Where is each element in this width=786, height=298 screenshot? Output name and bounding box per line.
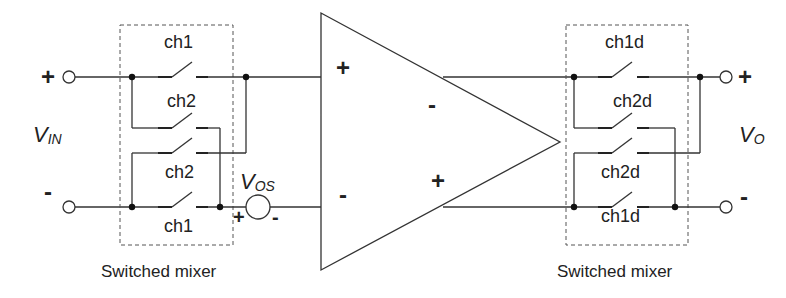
switch-label: ch2 — [167, 91, 196, 111]
right-mixer-caption: Switched mixer — [557, 262, 673, 281]
output-terminals: + - VO — [720, 63, 765, 213]
switch-label: ch1 — [164, 216, 193, 236]
switch-label: ch1 — [164, 32, 193, 52]
input-terminals: + - VIN — [33, 63, 75, 213]
amp-in-minus: - — [339, 181, 347, 208]
output-plus-sign: + — [738, 63, 752, 90]
offset-voltage-source: VOS + - — [233, 169, 321, 228]
amp-in-plus: + — [336, 54, 350, 81]
left-mixer-caption: Switched mixer — [101, 262, 217, 281]
amplifier-triangle — [321, 13, 560, 270]
output-minus-sign: - — [740, 183, 748, 210]
output-plus-terminal — [720, 71, 732, 83]
switch-label: ch1d — [605, 32, 644, 52]
vos-plus-sign: + — [233, 206, 245, 228]
vos-minus-sign: - — [272, 206, 279, 228]
right-switched-mixer: ch1d ch2d ch2d ch1d Switched — [557, 25, 720, 281]
vo-label: VO — [739, 122, 765, 147]
switch-label: ch2 — [165, 162, 194, 182]
vos-source-circle — [246, 195, 270, 219]
amp-out-minus: - — [428, 91, 436, 118]
vin-label: VIN — [33, 122, 63, 147]
output-minus-terminal — [720, 201, 732, 213]
input-minus-terminal — [63, 201, 75, 213]
differential-amplifier: + - - + — [321, 13, 598, 270]
vos-label: VOS — [240, 169, 276, 194]
left-switched-mixer: ch1 ch2 ch2 ch1 Switched mixe — [101, 25, 321, 281]
circuit-diagram: + - VIN ch1 ch2 ch2 ch1 — [0, 0, 786, 298]
input-plus-terminal — [63, 71, 75, 83]
switch-label: ch2d — [613, 91, 652, 111]
input-minus-sign: - — [44, 178, 52, 205]
input-plus-sign: + — [41, 63, 55, 90]
left-mixer-box — [120, 25, 233, 245]
switch-label: ch2d — [601, 162, 640, 182]
switch-label: ch1d — [601, 206, 640, 226]
amp-out-plus: + — [431, 167, 445, 194]
